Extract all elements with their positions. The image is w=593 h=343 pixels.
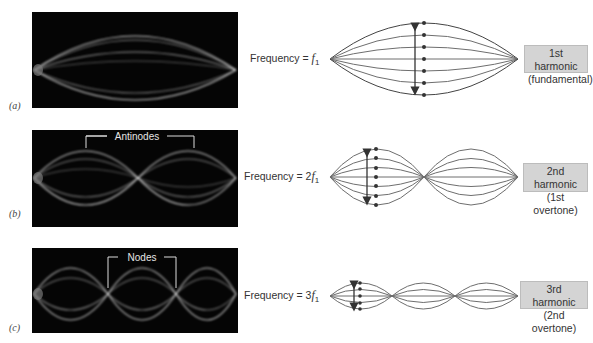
harmonic-label-a: 1st harmonic(fundamental) [524, 45, 588, 73]
displacement-dots-a [422, 21, 426, 97]
harmonic-label-b: 2nd harmonic(1st overtone) [523, 163, 588, 192]
displacement-dots-c [358, 281, 362, 311]
harmonic-label-c: 3rd harmonic(2nd overtone) [520, 281, 588, 309]
standing-wave-diagrams [0, 0, 593, 343]
string-diagram-second [330, 149, 518, 205]
displacement-dots-b [374, 147, 378, 207]
